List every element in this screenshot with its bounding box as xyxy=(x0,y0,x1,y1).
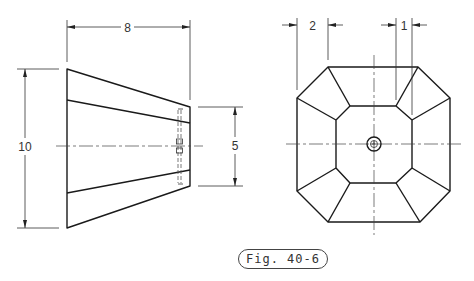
front-view: 8 10 5 xyxy=(17,20,243,228)
dimension-large-height-value: 10 xyxy=(18,140,32,154)
technical-drawing: 8 10 5 xyxy=(0,0,474,281)
side-view-outer-octagon xyxy=(297,67,450,222)
front-view-upper-edge xyxy=(67,100,190,123)
front-view-outline xyxy=(67,69,190,228)
dimension-left-offset-value: 2 xyxy=(309,19,316,33)
dimension-small-height: 5 xyxy=(198,107,243,186)
dimension-large-height: 10 xyxy=(17,69,59,228)
figure-caption: Fig. 40-6 xyxy=(238,249,328,269)
side-view: 2 1 xyxy=(282,18,463,235)
figure-caption-text: Fig. 40-6 xyxy=(246,252,320,266)
side-view-edges xyxy=(297,67,450,222)
dimension-right-offset-value: 1 xyxy=(401,19,408,33)
front-view-lower-edge xyxy=(67,170,190,193)
dimension-small-height-value: 5 xyxy=(232,139,239,153)
dimension-length-value: 8 xyxy=(124,21,131,35)
dimension-left-offset: 2 xyxy=(282,18,343,90)
